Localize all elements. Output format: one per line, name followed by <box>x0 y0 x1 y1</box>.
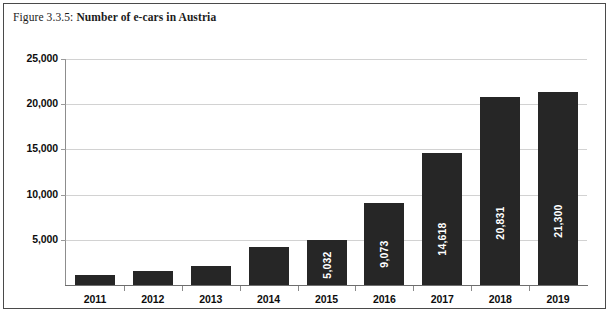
page-title: Number of e-cars in Austria <box>76 11 216 23</box>
y-axis-tick <box>61 59 66 60</box>
bar-slot: 21,300 <box>529 59 587 285</box>
x-axis-tick <box>413 286 414 291</box>
bar[interactable] <box>249 247 289 285</box>
x-axis-tick <box>124 286 125 291</box>
bar-value-label: 20,831 <box>494 206 506 239</box>
y-axis-tick <box>61 149 66 150</box>
x-axis-tick-label: 2013 <box>182 293 240 305</box>
bar[interactable]: 9,073 <box>364 203 404 285</box>
x-axis-tick-label: 2011 <box>66 293 124 305</box>
y-axis-labels: 5,00010,00015,00020,00025,000 <box>4 4 58 316</box>
bar-slot <box>66 59 124 285</box>
x-axis-tick-label: 2019 <box>529 293 587 305</box>
bar[interactable]: 5,032 <box>307 240 347 285</box>
x-axis-tick <box>182 286 183 291</box>
bar-value-label: 9,073 <box>378 241 390 268</box>
bar-slot: 20,831 <box>471 59 529 285</box>
bar-slot: 5,032 <box>298 59 356 285</box>
bar-slot: 9,073 <box>355 59 413 285</box>
bar-slot <box>182 59 240 285</box>
x-axis-tick <box>355 286 356 291</box>
y-axis-tick <box>61 195 66 196</box>
y-axis-tick-label: 15,000 <box>10 142 58 154</box>
figure-frame: Figure 3.3.5: Number of e-cars in Austri… <box>3 3 606 309</box>
x-axis-tick-label: 2017 <box>413 293 471 305</box>
bar[interactable]: 21,300 <box>538 92 578 285</box>
bar-value-label: 14,618 <box>436 223 448 256</box>
bar[interactable]: 20,831 <box>480 97 520 285</box>
x-axis-tick-label: 2016 <box>355 293 413 305</box>
y-axis-tick-label: 25,000 <box>10 52 58 64</box>
x-axis-tick <box>529 286 530 291</box>
bar-slot <box>124 59 182 285</box>
y-axis-tick-label: 10,000 <box>10 188 58 200</box>
y-axis-tick-label: 20,000 <box>10 97 58 109</box>
x-axis-tick-label: 2015 <box>298 293 356 305</box>
y-axis-tick <box>61 104 66 105</box>
bar-slot: 14,618 <box>413 59 471 285</box>
bar-value-label: 5,032 <box>321 252 333 279</box>
y-axis-tick-label: 5,000 <box>10 233 58 245</box>
bar-slot <box>240 59 298 285</box>
x-axis-tick <box>240 286 241 291</box>
bar[interactable]: 14,618 <box>422 153 462 285</box>
bar[interactable] <box>75 275 115 285</box>
bar-value-label: 21,300 <box>552 205 564 238</box>
x-axis-tick <box>471 286 472 291</box>
x-axis-tick-label: 2012 <box>124 293 182 305</box>
x-axis-tick-label: 2014 <box>240 293 298 305</box>
plot-area: 5,0329,07314,61820,83121,300 <box>66 59 587 285</box>
bar[interactable] <box>191 266 231 285</box>
x-axis-tick-label: 2018 <box>471 293 529 305</box>
x-axis-line <box>65 285 588 286</box>
y-axis-tick <box>61 240 66 241</box>
x-axis-tick <box>298 286 299 291</box>
bar[interactable] <box>133 271 173 285</box>
